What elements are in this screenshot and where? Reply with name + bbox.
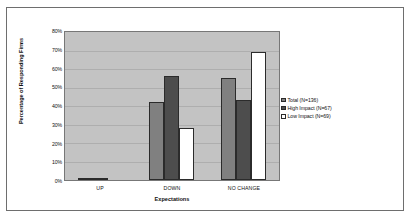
legend-label: Total (N=136) <box>288 97 319 103</box>
y-tick-label: 20% <box>52 141 62 147</box>
x-tick-label: NO CHANGE <box>209 185 279 191</box>
bar-total-up[interactable] <box>78 178 93 180</box>
y-tick-label: 70% <box>52 47 62 53</box>
legend-item-high-impact[interactable]: High Impact (N=67) <box>281 105 332 111</box>
plot-area <box>64 31 280 181</box>
legend-item-total[interactable]: Total (N=136) <box>281 97 332 103</box>
y-tick-label: 50% <box>52 84 62 90</box>
legend-swatch-icon <box>281 114 286 119</box>
x-axis-tick-labels: UP DOWN NO CHANGE <box>64 185 280 191</box>
bar-group-no-change <box>221 32 266 180</box>
bar-total-no-change[interactable] <box>221 78 236 180</box>
legend-swatch-icon <box>281 106 286 111</box>
bar-high-impact-down[interactable] <box>164 76 179 180</box>
x-axis-title: Expectations <box>64 196 280 202</box>
bar-low-impact-down[interactable] <box>179 128 194 180</box>
chart-page: Percentage of Responding Firms 80% 70% 6… <box>0 0 412 220</box>
legend-label: High Impact (N=67) <box>288 105 332 111</box>
bar-total-down[interactable] <box>149 102 164 180</box>
x-tick-label: UP <box>65 185 135 191</box>
y-axis-tick-labels: 80% 70% 60% 50% 40% 30% 20% 10% 0% <box>36 31 62 181</box>
bar-high-impact-no-change[interactable] <box>236 100 251 180</box>
bar-series-layer <box>65 32 279 180</box>
y-tick-label: 60% <box>52 66 62 72</box>
y-tick-label: 40% <box>52 103 62 109</box>
y-axis-title: Percentage of Responding Firms <box>18 16 24 146</box>
y-tick-label: 0% <box>55 178 62 184</box>
bar-group-up <box>78 32 123 180</box>
legend-swatch-icon <box>281 98 286 103</box>
legend-item-low-impact[interactable]: Low Impact (N=69) <box>281 113 332 119</box>
bar-group-down <box>149 32 194 180</box>
y-tick-label: 80% <box>52 28 62 34</box>
bar-chart: Percentage of Responding Firms 80% 70% 6… <box>0 0 412 220</box>
y-tick-label: 30% <box>52 122 62 128</box>
x-tick-label: DOWN <box>137 185 207 191</box>
y-tick-label: 10% <box>52 159 62 165</box>
legend-label: Low Impact (N=69) <box>288 113 331 119</box>
bar-high-impact-up[interactable] <box>93 178 108 180</box>
chart-legend: Total (N=136) High Impact (N=67) Low Imp… <box>281 97 332 119</box>
bar-low-impact-no-change[interactable] <box>251 52 266 180</box>
